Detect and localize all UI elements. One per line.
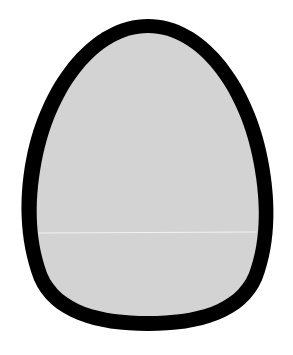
egg-icon (0, 0, 293, 355)
